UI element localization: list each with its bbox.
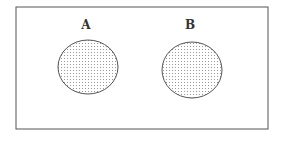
- set-b-label: B: [185, 18, 195, 32]
- set-a-circle: [58, 40, 118, 94]
- set-a-label: A: [80, 18, 91, 32]
- set-b-circle: [162, 42, 222, 98]
- universe-rectangle: [16, 7, 268, 129]
- venn-diagram: A B: [0, 0, 283, 143]
